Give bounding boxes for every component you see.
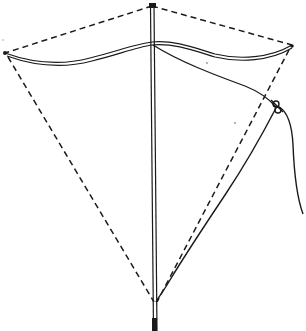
- spine: [151, 6, 158, 331]
- flying-line: [279, 107, 303, 214]
- spine-bottom-end: [152, 318, 157, 331]
- right-tip: [290, 44, 294, 48]
- kite-diagram: [0, 0, 306, 331]
- speck: [234, 122, 236, 124]
- speck: [2, 39, 3, 40]
- dashed-outline: [5, 6, 292, 302]
- bow: [5, 42, 292, 66]
- speck: [206, 62, 208, 64]
- left-tip: [3, 51, 7, 55]
- bridle-lower: [156, 108, 276, 302]
- knot-icon: [271, 100, 283, 113]
- spine-top-cap: [149, 3, 156, 8]
